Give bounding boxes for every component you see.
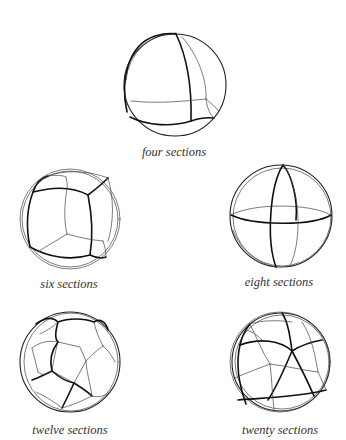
section-seam (268, 351, 292, 400)
section-seam (32, 348, 38, 372)
section-seam (125, 34, 176, 112)
diagram-canvas (0, 0, 346, 440)
sphere-twelve-sections (20, 312, 120, 412)
sphere-edge-line (235, 315, 329, 409)
section-seam (90, 255, 106, 258)
sphere-edge-line (24, 313, 118, 411)
section-seam (38, 234, 67, 252)
section-seam (56, 322, 58, 342)
section-seam (182, 37, 206, 99)
section-seam (270, 364, 274, 410)
section-seam (250, 324, 270, 364)
section-seam (52, 371, 92, 396)
section-seam (86, 346, 103, 361)
sphere-eight-sections (230, 165, 332, 267)
caption-twenty-sections: twenty sections (242, 424, 318, 437)
section-seam (206, 99, 214, 118)
section-seam (94, 322, 103, 346)
sphere-edge-line (233, 168, 331, 266)
section-seam (58, 319, 94, 322)
caption-eight-sections: eight sections (245, 276, 313, 289)
section-seam (214, 111, 219, 118)
sphere-six-sections (20, 169, 120, 269)
section-seam (130, 117, 214, 125)
section-seam (28, 188, 92, 258)
section-seam (65, 189, 67, 234)
section-seam (66, 177, 67, 189)
section-seam (67, 234, 103, 241)
caption-six-sections: six sections (40, 278, 97, 291)
section-seam (62, 383, 74, 408)
section-seam (246, 330, 262, 340)
section-seam (240, 341, 292, 351)
meridian-seam (270, 165, 283, 267)
sphere-outline (20, 312, 120, 412)
section-seam (292, 351, 314, 396)
sphere-outline (20, 169, 120, 269)
equator-seam (231, 206, 331, 215)
sphere-twenty-sections (230, 312, 330, 412)
section-seam (48, 175, 66, 177)
caption-four-sections: four sections (142, 146, 206, 159)
section-seam (94, 320, 108, 330)
section-seam (131, 99, 206, 102)
equator-seam (231, 215, 331, 223)
caption-twelve-sections: twelve sections (32, 424, 107, 437)
section-seam (103, 346, 115, 362)
section-seam (235, 364, 270, 378)
section-seam (292, 340, 322, 351)
pentagon-seam (52, 342, 86, 383)
section-seam (32, 371, 52, 380)
section-seam (233, 230, 276, 267)
meridian-seam (283, 165, 296, 220)
section-seam (270, 364, 318, 372)
sphere-four-sections (124, 33, 226, 136)
section-seam (176, 34, 191, 121)
